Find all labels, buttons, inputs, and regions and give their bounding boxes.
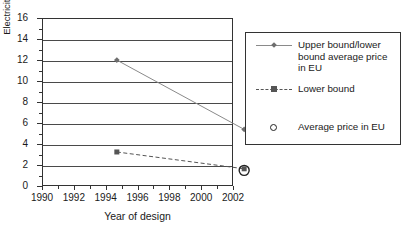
x-tick xyxy=(169,186,170,190)
y-tick-label: 12 xyxy=(4,55,28,65)
x-axis-ticks: 1990199219941996199820002002 xyxy=(42,186,233,196)
legend-item[interactable]: Upper bound/lower bound average price in… xyxy=(246,39,400,74)
legend-label: Lower bound xyxy=(298,83,355,95)
plot-area xyxy=(42,18,233,186)
data-point-marker xyxy=(114,57,120,63)
x-tick-minor xyxy=(90,186,91,189)
x-tick xyxy=(42,186,43,190)
series-line xyxy=(117,152,244,169)
x-tick-minor xyxy=(217,186,218,189)
y-tick-label: 4 xyxy=(4,139,28,149)
y-tick-label: 8 xyxy=(4,97,28,107)
x-tick-label: 2002 xyxy=(213,192,253,203)
x-tick xyxy=(106,186,107,190)
x-tick xyxy=(74,186,75,190)
x-tick-minor xyxy=(122,186,123,189)
y-tick-label: 16 xyxy=(4,13,28,23)
legend-marker xyxy=(252,121,298,133)
legend-marker xyxy=(252,83,298,95)
x-tick-minor xyxy=(153,186,154,189)
series-line xyxy=(117,60,244,129)
data-point-marker xyxy=(242,166,247,171)
data-point-marker xyxy=(114,149,119,154)
y-tick-label: 0 xyxy=(4,181,28,191)
y-tick-label: 6 xyxy=(4,118,28,128)
chart-figure: Electricity cost (p/kWh, 2000 prices) 02… xyxy=(0,0,405,234)
legend-diamond-icon xyxy=(271,42,277,48)
x-tick xyxy=(201,186,202,190)
x-tick-minor xyxy=(185,186,186,189)
x-axis-title: Year of design xyxy=(42,210,233,222)
x-tick xyxy=(138,186,139,190)
legend-label: Upper bound/lower bound average price in… xyxy=(298,39,396,74)
chart-legend: Upper bound/lower bound average price in… xyxy=(245,32,401,145)
legend-square-icon xyxy=(271,86,277,92)
x-tick xyxy=(233,186,234,190)
legend-item[interactable]: Lower bound xyxy=(246,83,400,95)
y-axis-ticks: 0246810121416 xyxy=(30,18,42,186)
x-tick-minor xyxy=(58,186,59,189)
y-tick-label: 2 xyxy=(4,160,28,170)
y-tick-label: 10 xyxy=(4,76,28,86)
legend-item[interactable]: Average price in EU xyxy=(246,121,400,133)
legend-label: Average price in EU xyxy=(298,121,385,133)
legend-marker xyxy=(252,39,298,51)
legend-open-circle-icon xyxy=(270,124,277,131)
y-tick-label: 14 xyxy=(4,34,28,44)
